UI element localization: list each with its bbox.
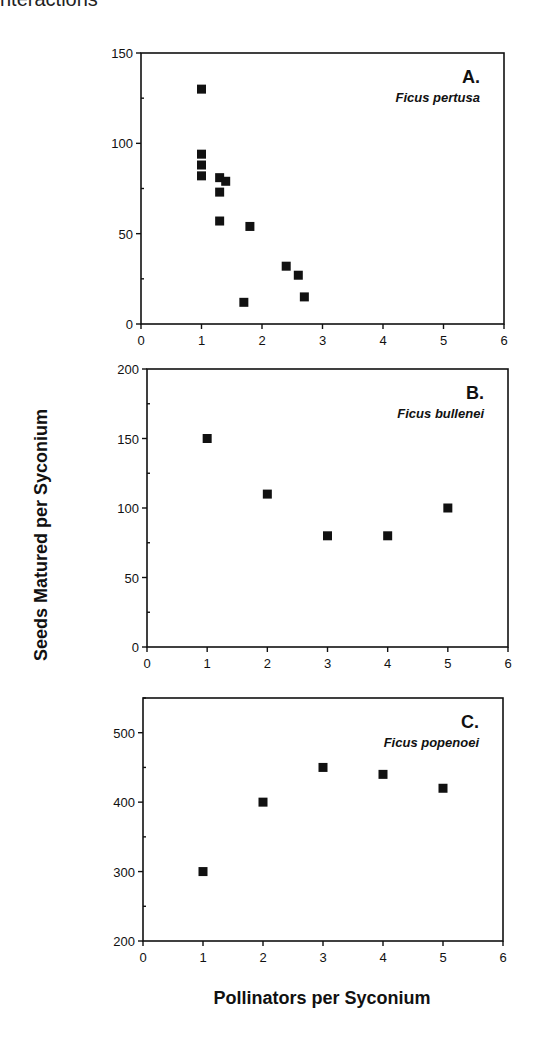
x-tick-label: 0 xyxy=(139,950,146,965)
panel-letter: C. xyxy=(461,712,479,732)
y-tick-label: 0 xyxy=(126,317,133,332)
y-tick-label: 300 xyxy=(113,865,135,880)
y-tick-label: 50 xyxy=(125,571,139,586)
data-point xyxy=(300,292,309,301)
x-tick-label: 1 xyxy=(198,333,205,348)
y-tick-label: 0 xyxy=(132,640,139,655)
x-tick-label: 3 xyxy=(324,656,331,671)
data-point xyxy=(215,217,224,226)
panel-species: Ficus popenoei xyxy=(384,735,480,750)
data-point xyxy=(197,150,206,159)
data-point xyxy=(263,490,272,499)
data-point xyxy=(383,531,392,540)
data-point xyxy=(197,85,206,94)
x-tick-label: 1 xyxy=(204,656,211,671)
y-tick-label: 150 xyxy=(111,46,133,61)
y-tick-label: 50 xyxy=(119,227,133,242)
panel-b: 0123456050100150200B.Ficus bullenei xyxy=(117,362,511,671)
x-tick-label: 4 xyxy=(384,656,391,671)
data-point xyxy=(239,298,248,307)
data-point xyxy=(379,770,388,779)
x-tick-label: 4 xyxy=(379,950,386,965)
x-tick-label: 6 xyxy=(499,950,506,965)
x-tick-label: 6 xyxy=(504,656,511,671)
x-axis-title: Pollinators per Syconium xyxy=(213,988,430,1008)
x-tick-label: 0 xyxy=(143,656,150,671)
y-tick-label: 500 xyxy=(113,726,135,741)
data-point xyxy=(439,784,448,793)
data-point xyxy=(199,867,208,876)
panel-species: Ficus pertusa xyxy=(395,90,480,105)
panel-letter: B. xyxy=(466,383,484,403)
data-point xyxy=(319,763,328,772)
data-point xyxy=(443,504,452,513)
x-tick-label: 5 xyxy=(444,656,451,671)
x-tick-label: 5 xyxy=(439,950,446,965)
y-tick-label: 100 xyxy=(117,501,139,516)
data-point xyxy=(221,177,230,186)
panel-a: 0123456050100150A.Ficus pertusa xyxy=(111,46,507,348)
data-point xyxy=(294,271,303,280)
y-tick-label: 150 xyxy=(117,432,139,447)
y-axis-title: Seeds Matured per Syconium xyxy=(31,409,51,661)
x-tick-label: 5 xyxy=(440,333,447,348)
data-point xyxy=(215,188,224,197)
x-tick-label: 3 xyxy=(319,333,326,348)
y-tick-label: 400 xyxy=(113,795,135,810)
y-tick-label: 200 xyxy=(117,362,139,377)
x-tick-label: 6 xyxy=(500,333,507,348)
x-tick-label: 1 xyxy=(199,950,206,965)
y-tick-label: 100 xyxy=(111,136,133,151)
y-tick-label: 200 xyxy=(113,934,135,949)
data-point xyxy=(282,262,291,271)
data-point xyxy=(197,161,206,170)
panel-letter: A. xyxy=(462,67,480,87)
x-tick-label: 0 xyxy=(137,333,144,348)
data-point xyxy=(245,222,254,231)
data-point xyxy=(323,531,332,540)
data-point xyxy=(259,798,268,807)
data-point xyxy=(203,434,212,443)
x-tick-label: 3 xyxy=(319,950,326,965)
x-tick-label: 2 xyxy=(258,333,265,348)
data-point xyxy=(197,171,206,180)
panel-species: Ficus bullenei xyxy=(397,406,484,421)
x-tick-label: 4 xyxy=(379,333,386,348)
x-tick-label: 2 xyxy=(264,656,271,671)
figure: 0123456050100150A.Ficus pertusa012345605… xyxy=(0,0,539,1056)
panel-c: 0123456200300400500C.Ficus popenoei xyxy=(113,698,506,965)
x-tick-label: 2 xyxy=(259,950,266,965)
